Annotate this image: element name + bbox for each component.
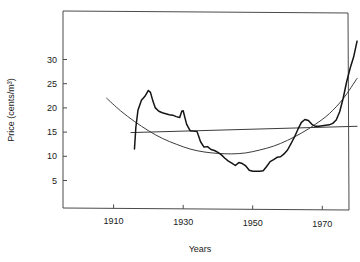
plot-border bbox=[63, 11, 349, 210]
x-tick-label-1910: 1910 bbox=[104, 216, 124, 226]
chart-figure: 30 25 20 15 10 5 1910 1930 1950 1970 bbox=[0, 0, 360, 262]
x-axis-title: Years bbox=[189, 244, 212, 254]
y-tick-label-10: 10 bbox=[47, 151, 57, 161]
linear-trend-line bbox=[131, 126, 357, 132]
y-axis-tick-labels: 30 25 20 15 10 5 bbox=[47, 55, 57, 186]
y-tick-label-5: 5 bbox=[52, 176, 57, 186]
plot-frame bbox=[63, 11, 349, 210]
y-tick-label-30: 30 bbox=[47, 55, 57, 65]
y-tick-label-15: 15 bbox=[47, 127, 57, 137]
y-axis-ticks bbox=[63, 60, 67, 181]
y-tick-label-25: 25 bbox=[47, 79, 57, 89]
observed-price-line bbox=[134, 41, 357, 171]
x-tick-label-1970: 1970 bbox=[312, 219, 332, 229]
x-axis-tick-labels: 1910 1930 1950 1970 bbox=[104, 216, 333, 229]
x-tick-label-1930: 1930 bbox=[173, 217, 193, 227]
x-tick-label-1950: 1950 bbox=[243, 218, 263, 228]
price-vs-years-line-chart: 30 25 20 15 10 5 1910 1930 1950 1970 bbox=[0, 0, 360, 262]
y-tick-label-20: 20 bbox=[47, 103, 57, 113]
data-series-group bbox=[107, 41, 357, 171]
quadratic-fit-curve bbox=[107, 78, 357, 154]
y-axis-title: Price (cents/m³) bbox=[6, 78, 16, 142]
